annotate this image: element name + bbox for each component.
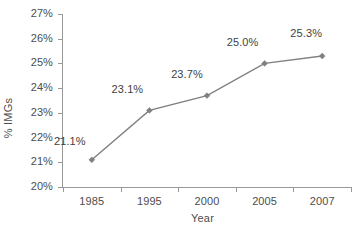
x-axis-tick: [293, 187, 294, 192]
y-axis-tick-label: 20%: [31, 180, 53, 192]
y-axis-tick-label: 25%: [31, 56, 53, 68]
x-axis-tick: [236, 187, 237, 192]
plot-area: 20%21%22%23%24%25%26%27% 198519952000200…: [62, 14, 351, 188]
x-axis-tick: [121, 187, 122, 192]
x-axis-tick-label: 1995: [137, 195, 162, 207]
y-axis-tick-label: 22%: [31, 131, 53, 143]
data-point-label: 21.1%: [54, 135, 86, 147]
y-axis-title: % IMGs: [0, 0, 16, 236]
y-axis-tick-label: 24%: [31, 81, 53, 93]
data-point-label: 23.7%: [171, 68, 203, 80]
y-axis-tick-label: 27%: [31, 7, 53, 19]
data-point-label: 25.0%: [227, 36, 259, 48]
data-point-marker: [319, 53, 325, 59]
x-axis-tick: [63, 187, 64, 192]
data-point-label: 23.1%: [112, 83, 144, 95]
series-line: [63, 14, 351, 187]
line-chart: % IMGs 20%21%22%23%24%25%26%27% 19851995…: [0, 0, 362, 236]
y-axis-tick-label: 21%: [31, 155, 53, 167]
x-axis-tick-label: 2000: [195, 195, 220, 207]
y-axis-tick-label: 23%: [31, 106, 53, 118]
data-point-label: 25.3%: [290, 27, 322, 39]
x-axis-tick-label: 2007: [310, 195, 335, 207]
x-axis-tick: [178, 187, 179, 192]
x-axis-title: Year: [55, 212, 350, 224]
x-axis-tick-label: 1985: [79, 195, 104, 207]
y-axis-tick-label: 26%: [31, 32, 53, 44]
series-polyline: [92, 56, 322, 160]
x-axis-tick-label: 2005: [252, 195, 277, 207]
data-point-marker: [204, 93, 210, 99]
data-point-marker: [262, 61, 268, 67]
x-axis-tick: [351, 187, 352, 192]
